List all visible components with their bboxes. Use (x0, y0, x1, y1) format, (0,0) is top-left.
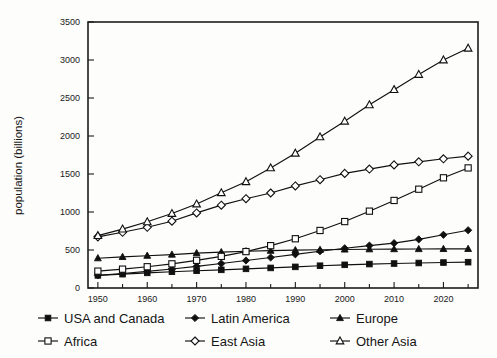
series-usa-and-canada (95, 259, 471, 278)
data-point-marker (440, 175, 446, 181)
data-point-marker (465, 227, 472, 234)
y-axis-tick-labels: 0500100015002000250030003500 (60, 17, 80, 293)
data-point-marker (415, 236, 422, 243)
data-point-marker (193, 200, 201, 207)
x-tick-label: 1980 (236, 294, 256, 304)
x-tick-label: 1960 (137, 294, 157, 304)
series-line (98, 48, 468, 235)
x-axis-ticks (98, 282, 468, 288)
y-tick-label: 500 (65, 245, 80, 255)
chart-legend: USA and CanadaLatin AmericaEuropeAfricaE… (38, 311, 417, 349)
series-line (98, 230, 468, 275)
x-axis-tick-labels: 19501960197019801990200020102020 (88, 294, 454, 304)
data-point-marker (391, 197, 397, 203)
x-tick-label: 1950 (88, 294, 108, 304)
legend-label: Other Asia (356, 334, 417, 349)
y-tick-label: 2000 (60, 131, 80, 141)
legend-item-africa[interactable]: Africa (38, 334, 98, 349)
x-tick-label: 1970 (187, 294, 207, 304)
legend-label: USA and Canada (64, 311, 165, 326)
data-point-marker (242, 178, 250, 185)
data-point-marker (169, 261, 175, 267)
data-point-marker (217, 189, 225, 196)
data-point-marker (390, 161, 398, 169)
data-point-marker (415, 70, 423, 77)
data-point-marker (194, 257, 200, 263)
data-point-marker (341, 169, 349, 177)
data-point-marker (193, 209, 201, 217)
data-point-marker (415, 158, 423, 166)
data-point-marker (391, 261, 397, 267)
data-point-marker (267, 189, 275, 197)
data-point-marker (316, 176, 324, 184)
data-point-marker (439, 155, 447, 163)
series-line (98, 262, 468, 275)
y-tick-label: 3500 (60, 17, 80, 27)
x-tick-label: 1990 (285, 294, 305, 304)
chart-canvas: 0500100015002000250030003500 19501960197… (0, 0, 497, 358)
legend-label: Africa (64, 334, 98, 349)
data-point-marker (218, 260, 225, 267)
legend-label: Latin America (211, 311, 291, 326)
data-point-marker (317, 227, 323, 233)
y-tick-label: 1000 (60, 207, 80, 217)
data-point-marker (144, 264, 150, 270)
legend-item-europe[interactable]: Europe (330, 311, 398, 326)
data-point-marker (243, 266, 249, 272)
data-point-marker (366, 101, 374, 108)
data-point-marker (316, 133, 324, 140)
data-point-marker (218, 267, 224, 273)
data-point-marker (416, 260, 422, 266)
series-other-asia (94, 44, 472, 238)
data-point-marker (242, 257, 249, 264)
series-line (98, 156, 468, 237)
legend-item-other-asia[interactable]: Other Asia (330, 334, 417, 349)
data-point-marker (191, 314, 198, 321)
y-tick-label: 0 (75, 283, 80, 293)
data-point-marker (341, 117, 349, 124)
data-point-marker (242, 195, 250, 203)
data-point-marker (367, 261, 373, 267)
data-point-marker (293, 264, 299, 270)
data-point-marker (291, 182, 299, 190)
data-point-marker (390, 86, 398, 93)
data-point-marker (441, 260, 447, 266)
data-point-marker (292, 236, 298, 242)
y-axis-title: population (billions) (12, 116, 24, 215)
data-point-marker (268, 265, 274, 271)
data-point-marker (317, 263, 323, 269)
data-point-marker (191, 337, 199, 345)
legend-item-east-asia[interactable]: East Asia (185, 334, 266, 349)
data-point-marker (365, 165, 373, 173)
data-point-marker (268, 243, 274, 249)
series-line (98, 249, 468, 258)
data-point-marker (267, 164, 275, 171)
legend-label: East Asia (211, 334, 266, 349)
data-point-marker (465, 259, 471, 265)
y-axis-ticks (88, 22, 94, 288)
data-point-marker (292, 149, 300, 156)
data-point-marker (168, 217, 176, 225)
legend-item-latin-america[interactable]: Latin America (185, 311, 291, 326)
data-point-marker (119, 266, 125, 272)
data-point-marker (465, 165, 471, 171)
data-point-marker (217, 201, 225, 209)
population-line-chart-figure: 0500100015002000250030003500 19501960197… (0, 0, 497, 358)
legend-item-usa-and-canada[interactable]: USA and Canada (38, 311, 165, 326)
x-tick-label: 2010 (384, 294, 404, 304)
data-point-marker (218, 253, 224, 259)
data-point-marker (342, 262, 348, 268)
data-point-marker (464, 152, 472, 160)
data-point-marker (416, 186, 422, 192)
legend-label: Europe (356, 311, 398, 326)
data-point-marker (464, 44, 472, 51)
x-tick-label: 2020 (433, 294, 453, 304)
data-point-marker (45, 338, 51, 344)
data-point-marker (267, 254, 274, 261)
data-point-marker (440, 56, 448, 63)
y-tick-label: 3000 (60, 55, 80, 65)
data-series-group (94, 44, 472, 279)
y-tick-label: 1500 (60, 169, 80, 179)
series-east-asia (94, 152, 472, 241)
series-latin-america (94, 227, 471, 279)
